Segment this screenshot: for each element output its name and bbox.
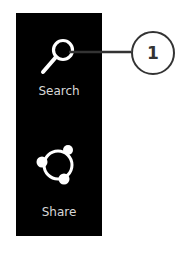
share-label: Share — [16, 205, 102, 219]
search-icon — [16, 13, 102, 113]
charms-bar: Search Share — [16, 13, 102, 236]
share-charm[interactable]: Share — [16, 128, 102, 233]
search-charm[interactable]: Search — [16, 13, 102, 113]
search-label: Search — [16, 84, 102, 98]
callout-number: 1 — [131, 31, 175, 75]
